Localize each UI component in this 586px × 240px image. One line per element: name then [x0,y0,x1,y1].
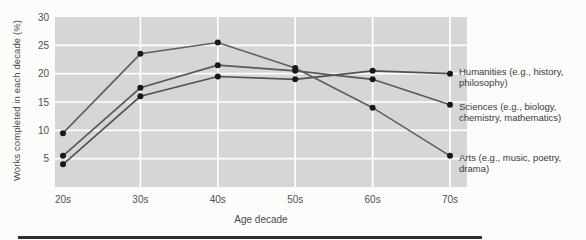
data-point-sciences-40s [215,62,221,68]
data-point-sciences-30s [137,85,143,91]
y-tick-label-5: 5 [43,153,49,164]
x-axis-title: Age decade [55,214,467,225]
series-label-sciences: Sciences (e.g., biology, chemistry, math… [459,101,585,123]
data-point-sciences-60s [370,76,376,82]
data-point-arts-50s [292,65,298,71]
x-tick-label-20s: 20s [55,194,71,205]
x-tick-label-50s: 50s [287,194,303,205]
y-tick-label-20: 20 [38,68,50,79]
y-tick-label-30: 30 [38,12,50,23]
data-point-humanities-60s [370,68,376,74]
data-point-arts-60s [370,105,376,111]
figure-page: 3025201510520s30s40s50s60s70s Works comp… [0,0,586,240]
data-point-arts-40s [215,40,221,46]
data-point-sciences-20s [60,153,66,159]
bottom-rule [18,236,482,239]
data-point-arts-30s [137,51,143,57]
data-point-arts-20s [60,130,66,136]
data-point-humanities-50s [292,76,298,82]
data-point-humanities-70s [447,71,453,77]
y-axis-title: Works completed in each decade (%) [11,11,22,191]
y-tick-label-10: 10 [38,125,50,136]
data-point-humanities-30s [137,93,143,99]
x-tick-label-40s: 40s [210,194,226,205]
x-tick-label-70s: 70s [442,194,458,205]
series-label-humanities: Humanities (e.g., history, philosophy) [459,66,585,88]
data-point-arts-70s [447,153,453,159]
data-point-humanities-40s [215,74,221,80]
data-point-sciences-70s [447,102,453,108]
x-tick-label-60s: 60s [365,194,381,205]
y-tick-label-15: 15 [38,97,50,108]
x-tick-label-30s: 30s [132,194,148,205]
data-point-humanities-20s [60,161,66,167]
series-label-arts: Arts (e.g., music, poetry, drama) [459,152,585,174]
y-tick-label-25: 25 [38,40,50,51]
